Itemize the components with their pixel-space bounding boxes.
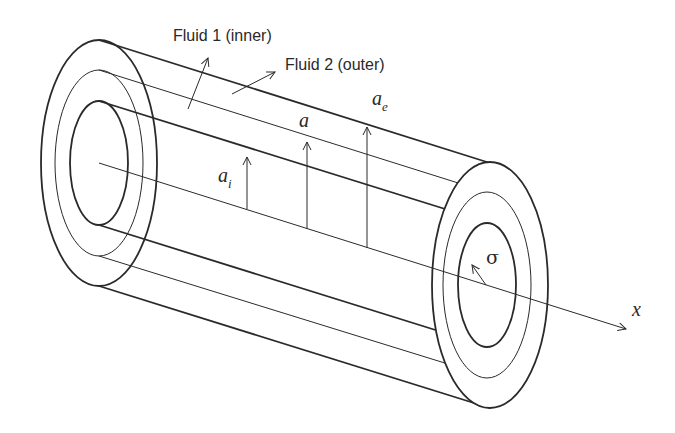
fluid-inner-label: Fluid 1 (inner)	[173, 27, 272, 44]
inner-radius-subscript: i	[228, 176, 232, 191]
fluid-outer-label: Fluid 2 (outer)	[285, 56, 385, 73]
outer-radius-subscript: e	[382, 99, 388, 114]
outer-bottom-line	[99, 286, 490, 408]
x-axis-label: x	[631, 298, 641, 320]
coaxial-cylinder-diagram: x a i a a e Fluid 1 (inner) Fluid 2 (out…	[0, 0, 675, 433]
diagram-canvas: x a i a a e Fluid 1 (inner) Fluid 2 (out…	[0, 0, 675, 433]
surface-tension-label: σ	[486, 246, 499, 268]
outer-radius-label: a	[372, 87, 382, 109]
x-axis-arrow	[99, 163, 626, 329]
right-end-cap	[432, 162, 548, 408]
interface-radius-label: a	[299, 109, 309, 131]
inner-radius-label: a	[218, 164, 228, 186]
cylinder-generators	[99, 40, 490, 408]
